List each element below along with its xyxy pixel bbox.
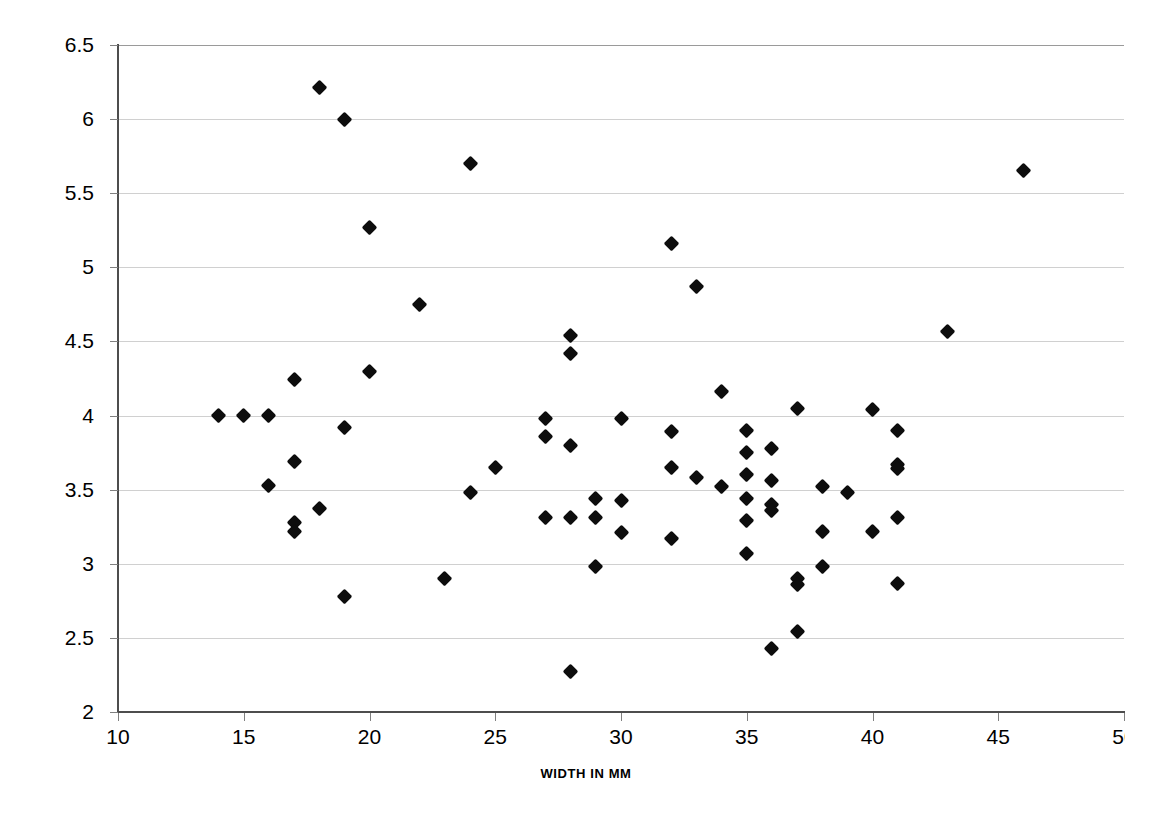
y-tick	[110, 45, 118, 46]
y-tick	[110, 638, 118, 639]
y-tick-label: 6.5	[14, 33, 94, 57]
y-tick-label: 6	[14, 107, 94, 131]
y-tick-label: 4.5	[14, 329, 94, 353]
y-tick-label: 5.5	[14, 181, 94, 205]
x-tick	[621, 713, 622, 721]
x-tick	[118, 713, 119, 721]
y-tick	[110, 193, 118, 194]
y-tick	[110, 341, 118, 342]
gridline-y	[118, 45, 1124, 46]
x-tick	[747, 713, 748, 721]
gridline-y	[118, 341, 1124, 342]
gridline-y	[118, 638, 1124, 639]
x-tick	[370, 713, 371, 721]
x-tick	[495, 713, 496, 721]
right-edge-clip	[1125, 0, 1172, 820]
x-tick	[873, 713, 874, 721]
gridline-y	[118, 564, 1124, 565]
y-tick	[110, 490, 118, 491]
y-tick	[110, 267, 118, 268]
x-tick	[244, 713, 245, 721]
x-tick-label: 30	[581, 725, 661, 749]
y-tick	[110, 416, 118, 417]
x-tick-label: 15	[204, 725, 284, 749]
x-tick-label: 10	[78, 725, 158, 749]
plot-area	[118, 45, 1124, 712]
x-tick-label: 45	[958, 725, 1038, 749]
y-tick-label: 3	[14, 552, 94, 576]
y-tick	[110, 119, 118, 120]
x-axis-title: WIDTH IN MM	[0, 766, 1172, 781]
gridline-y	[118, 193, 1124, 194]
x-tick-label: 35	[707, 725, 787, 749]
scatter-chart: L/TH RATIO WIDTH IN MM 22.533.544.555.56…	[0, 0, 1172, 820]
y-tick-label: 2.5	[14, 626, 94, 650]
y-axis-line	[117, 44, 119, 713]
x-tick-label: 40	[833, 725, 913, 749]
gridline-y	[118, 119, 1124, 120]
y-tick	[110, 564, 118, 565]
x-tick	[998, 713, 999, 721]
y-tick	[110, 712, 118, 713]
x-tick-label: 20	[330, 725, 410, 749]
gridline-y	[118, 267, 1124, 268]
y-tick-label: 2	[14, 700, 94, 724]
y-tick-label: 4	[14, 404, 94, 428]
x-tick-label: 25	[455, 725, 535, 749]
y-tick-label: 3.5	[14, 478, 94, 502]
y-tick-label: 5	[14, 255, 94, 279]
y-axis-title: L/TH RATIO	[0, 341, 1, 416]
